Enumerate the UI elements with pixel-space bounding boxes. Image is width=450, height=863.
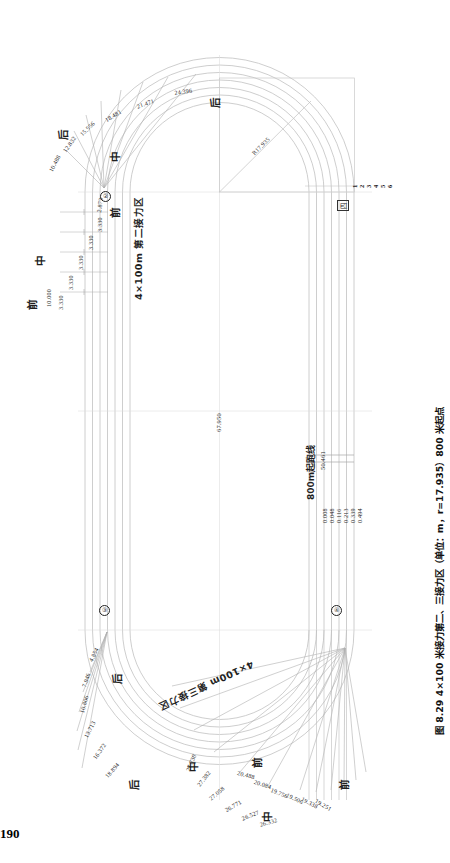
dim-27058: 27.058 [208,797,226,803]
straight-length-dim: 67.950 [216,432,235,438]
dim-26527: 26.527 [241,816,259,822]
dim-27382: 27.382 [196,784,214,790]
stagger-5: 0.494 [357,523,372,529]
zone3-back-label: 后 [112,684,122,695]
zone2-back-label-2: 后 [210,108,220,119]
radius-label: R17.935 [251,152,273,158]
zone3-back-label-2: 后 [129,790,139,801]
lane-number-1: 1 [352,188,355,195]
dim-21471: 21.471 [136,104,154,110]
dim-26771: 26.771 [224,808,242,814]
dim-3330-b: 3.330 [68,290,83,296]
zone3-marker-3: ③ [99,598,110,616]
dim-18481: 18.481 [104,118,122,124]
zone2-middle-label: 中 [110,162,120,173]
lane-number-4: 4 [373,188,376,195]
dim-3330-e: 3.330 [97,232,112,238]
figure-caption: 图 8.29 4×100 米接力第二、三接力区（单位：m，r=17.935）80… [432,735,450,749]
dim-4854: 4.854 [88,660,103,666]
dim-20488: 20.488 [238,770,256,776]
dim-7946: 7.946 [81,686,96,692]
dim-18894: 18.894 [104,775,122,781]
lane-number-6: 6 [387,188,390,195]
lane-number-3: 3 [366,188,369,195]
dim-10488: 10.488 [48,170,66,176]
zone3-title: 4×100m 第三接力区 [255,668,359,678]
dim-19251: 19.251 [317,798,335,804]
zone2-middle-label-2: 中 [35,266,45,277]
dim-15556: 15.556 [79,133,97,139]
field-rectangle [220,78,355,192]
dim-27730: 27.730 [185,770,203,776]
lane-number-2: 2 [359,188,362,195]
dim-20084: 20.084 [255,779,273,785]
dim-13713: 13.713 [83,736,101,742]
dim-12832: 12.832 [62,150,80,156]
zone2-title: 4×100m 第二接力区 [134,300,238,310]
page-number: 190 [0,826,20,842]
dim-3330-a: 3.330 [58,310,73,316]
zone3-front-label-2: 前 [339,790,349,801]
construction-axes [78,55,372,800]
dim-3330-c: 3.330 [78,270,93,276]
dim-3330-d: 3.330 [88,250,103,256]
dim-16372: 16.372 [92,757,110,763]
dim-10806: 10.806 [79,712,97,718]
dim-24396: 24.396 [174,90,192,96]
zone2-front-label-2: 前 [27,310,37,321]
lane-number-5: 5 [380,188,383,195]
quadrant-marker-four: 四 [337,205,348,223]
zone2-front-label: 前 [110,218,120,229]
start-line-main-dim: 50.461 [320,470,339,476]
zone3-marker-4: ④ [331,598,342,616]
dim-26332: 26.332 [259,822,277,828]
